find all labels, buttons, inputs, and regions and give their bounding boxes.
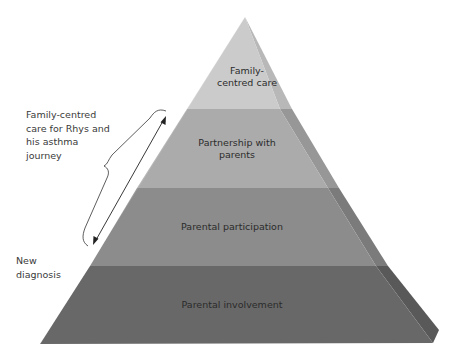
journey-label-line-3: his asthma [26,135,110,149]
tier-3-label: Parental participation [181,221,283,233]
tier-1-label-line-1: Family- [217,65,277,77]
tier-4-label: Parental involvement [182,299,283,311]
new-diagnosis-label: New diagnosis [16,254,61,281]
new-diagnosis-line-2: diagnosis [16,268,61,282]
tier-2-label: Partnership with parents [198,137,275,161]
tier-3-label-line-1: Parental participation [181,221,283,233]
journey-label-line-4: journey [26,149,110,163]
journey-label: Family-centred care for Rhys and his ast… [26,108,110,162]
tier-1-label-line-2: centred care [217,77,277,89]
tier-4-label-line-1: Parental involvement [182,299,283,311]
new-diagnosis-line-1: New [16,254,61,268]
pyramid-diagram: Family- centred care Partnership with pa… [0,0,463,360]
tier-2-label-line-1: Partnership with [198,137,275,149]
journey-label-line-2: care for Rhys and [26,122,110,136]
journey-label-line-1: Family-centred [26,108,110,122]
tier-1-label: Family- centred care [217,65,277,89]
tier-2-label-line-2: parents [198,149,275,161]
